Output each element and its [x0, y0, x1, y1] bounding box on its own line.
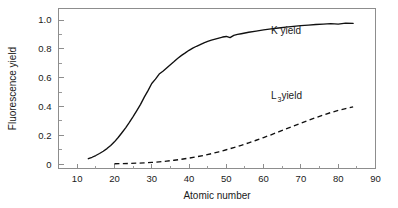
y-tick-label: 0.6	[38, 72, 51, 83]
series-label-l3-suffix: yield	[281, 90, 302, 101]
y-tick-label: 0.2	[38, 130, 51, 141]
fluorescence-yield-figure: 102030405060708090 00.20.40.60.81.0 Atom…	[0, 0, 398, 208]
y-tick-label: 0	[46, 159, 51, 170]
chart-canvas: 102030405060708090 00.20.40.60.81.0 Atom…	[0, 0, 398, 208]
y-tick-label: 1.0	[38, 14, 51, 25]
x-tick-label: 90	[370, 173, 381, 184]
series-label-l3-prefix: L	[271, 90, 277, 101]
y-tick-label: 0.8	[38, 43, 51, 54]
plot-frame-border	[59, 9, 376, 169]
series-label-k-yield: K yield	[271, 25, 301, 36]
y-axis-title: Fluorescence yield	[7, 47, 18, 130]
x-axis-tick-labels: 102030405060708090	[72, 173, 381, 184]
data-series-group	[88, 23, 353, 164]
x-axis-ticks	[77, 164, 375, 169]
x-tick-label: 40	[184, 173, 195, 184]
x-tick-label: 70	[296, 173, 307, 184]
series-line-l3-yield	[114, 107, 353, 164]
x-tick-label: 80	[333, 173, 344, 184]
x-tick-label: 30	[146, 173, 157, 184]
x-tick-label: 60	[258, 173, 269, 184]
x-axis-title: Atomic number	[183, 190, 251, 201]
series-line-k-yield	[88, 23, 353, 159]
y-tick-label: 0.4	[38, 101, 51, 112]
x-tick-label: 10	[72, 173, 83, 184]
series-label-l3-yield: L 3 yield	[271, 90, 302, 103]
x-tick-label: 20	[109, 173, 120, 184]
y-axis-ticks	[59, 20, 64, 164]
y-axis-tick-labels: 00.20.40.60.81.0	[38, 14, 51, 169]
x-tick-label: 50	[221, 173, 232, 184]
plot-frame	[59, 9, 376, 169]
